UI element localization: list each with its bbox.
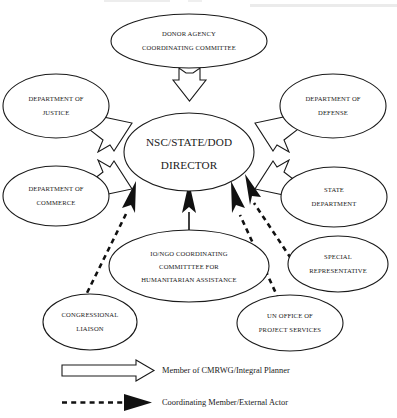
center-label-line-2: DIRECTOR [161, 159, 218, 171]
node-label-line-1: DEPARTMENT OF [28, 95, 83, 102]
node-department-of-commerce[interactable]: DEPARTMENT OF COMMERCE [3, 166, 109, 226]
node-shape [280, 74, 386, 138]
node-label-line-2: PROJECT SERVICES [259, 326, 322, 333]
node-special-representative[interactable]: SPECIAL REPRESENTATIVE [288, 236, 388, 292]
node-label-line-1: SPECIAL [324, 253, 352, 260]
node-shape [111, 14, 267, 68]
node-label-line-2: COMMERCE [37, 199, 76, 206]
node-donor-agency-coordinating-committee[interactable]: DONOR AGENCY COORDINATING COMMITTEE [111, 14, 267, 68]
node-label-line-2: LIAISON [76, 325, 104, 332]
node-shape [237, 295, 343, 351]
node-label-line-3: HUMANITARIAN ASSISTANCE [141, 276, 237, 283]
node-label-line-2: JUSTICE [43, 109, 70, 116]
node-label-line-2: REPRESENTATIVE [309, 267, 367, 274]
center-label-line-1: NSC/STATE/DOD [146, 136, 232, 148]
node-shape [124, 113, 254, 191]
node-shape [281, 167, 387, 227]
node-shape [43, 294, 137, 350]
node-label-line-1: DEPARTMENT OF [305, 95, 360, 102]
diagram-canvas: DONOR AGENCY COORDINATING COMMITTEE DEPA… [0, 0, 397, 418]
node-department-of-defense[interactable]: DEPARTMENT OF DEFENSE [280, 74, 386, 138]
node-congressional-liaison[interactable]: CONGRESSIONAL LIAISON [43, 294, 137, 350]
node-state-department[interactable]: STATE DEPARTMENT [281, 167, 387, 227]
node-label-line-1: IO/NGO COORDINATING [150, 250, 227, 257]
legend-label-coordinating: Coordinating Member/External Actor [162, 398, 288, 407]
node-label-line-1: CONGRESSIONAL [62, 311, 119, 318]
node-shape [3, 166, 109, 226]
node-io-ngo-coordinating-committee[interactable]: IO/NGO COORDINATING COMMITTTEE FOR HUMAN… [109, 230, 269, 302]
node-shape [3, 74, 109, 138]
node-department-of-justice[interactable]: DEPARTMENT OF JUSTICE [3, 74, 109, 138]
node-shape [288, 236, 388, 292]
node-label-line-1: UN OFFICE OF [267, 312, 313, 319]
node-label-line-2: DEPARTMENT [312, 200, 357, 207]
node-label-line-1: DONOR AGENCY [162, 30, 216, 37]
node-un-office-of-project-services[interactable]: UN OFFICE OF PROJECT SERVICES [237, 295, 343, 351]
node-label-line-1: STATE [324, 186, 344, 193]
node-label-line-1: DEPARTMENT OF [28, 185, 83, 192]
node-label-line-2: DEFENSE [318, 109, 348, 116]
legend-label-integral: Member of CMRWG/Integral Planner [162, 366, 290, 375]
node-label-line-2: COORDINATING COMMITTEE [142, 44, 236, 51]
node-nsc-state-dod-director[interactable]: NSC/STATE/DOD DIRECTOR [124, 113, 254, 191]
node-label-line-2: COMMITTTEE FOR [159, 263, 219, 270]
